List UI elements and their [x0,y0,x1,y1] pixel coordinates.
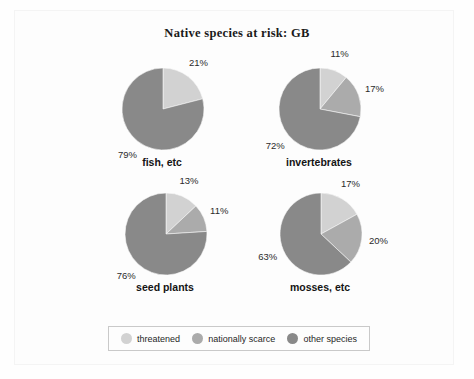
legend-swatch-icon-other-species [287,333,298,344]
page-title: Native species at risk: GB [0,26,474,41]
pie-percent-label: 17% [339,178,363,189]
pie-slices [279,68,361,150]
pie-slices [125,193,207,275]
pie-label-invertebrates: invertebrates [239,156,399,168]
legend-label-threatened: threatened [137,334,180,344]
legend-item-other-species: other species [287,333,357,344]
pie-label-fish: fish, etc [82,156,242,168]
pie-graphic-seed-plants [125,193,207,275]
chart-legend: threatened nationally scarce other speci… [108,326,370,351]
pie-percent-label: 13% [177,175,201,186]
pie-percent-label: 20% [367,235,391,246]
pie-percent-label: 72% [263,140,287,151]
pie-percent-label: 79% [115,149,139,160]
pie-percent-label: 17% [363,83,387,94]
legend-swatch-icon-nationally-scarce [192,333,203,344]
legend-label-other-species: other species [303,334,357,344]
pie-graphic-invertebrates [279,68,361,150]
legend-item-threatened: threatened [121,333,180,344]
pie-slices [122,68,204,150]
pie-percent-label: 76% [114,270,138,281]
pie-chart-mosses: mosses, etc 17%20%63% [240,183,400,318]
figure-canvas: Native species at risk: GB fish, etc 21%… [0,0,474,379]
legend-label-nationally-scarce: nationally scarce [208,334,275,344]
pie-label-mosses: mosses, etc [240,281,400,293]
pie-label-seed-plants: seed plants [85,281,245,293]
pie-percent-label: 63% [256,251,280,262]
pie-chart-fish: fish, etc 21%79% [82,58,242,193]
pie-percent-label: 11% [207,205,231,216]
pie-percent-label: 11% [328,48,352,59]
pie-chart-invertebrates: invertebrates 11%17%72% [239,58,399,193]
pie-graphic-fish [122,68,204,150]
pie-chart-seed-plants: seed plants 13%11%76% [85,183,245,318]
legend-item-nationally-scarce: nationally scarce [192,333,275,344]
legend-swatch-icon-threatened [121,333,132,344]
pie-graphic-mosses [280,193,362,275]
pie-percent-label: 21% [187,57,211,68]
pie-slices [280,193,362,275]
